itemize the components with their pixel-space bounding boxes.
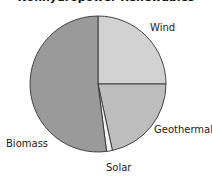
pie-slice-biomass [30,16,107,152]
pie-chart [0,0,212,178]
label-biomass: Biomass [6,138,48,149]
label-wind: Wind [150,22,175,33]
label-solar: Solar [106,162,131,173]
label-geothermal: Geothermal [154,124,212,135]
